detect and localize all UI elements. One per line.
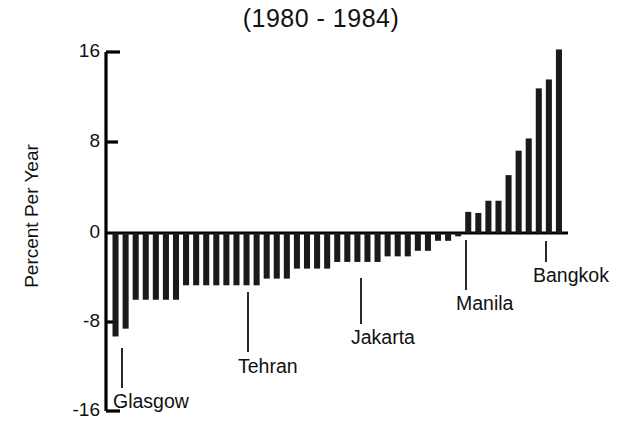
bar (294, 233, 300, 269)
bar (193, 233, 199, 285)
bar (244, 233, 250, 285)
bar (385, 233, 391, 256)
bar (324, 233, 330, 269)
bar (465, 212, 471, 233)
bar (485, 201, 491, 233)
bar (344, 233, 350, 262)
bar (364, 233, 370, 262)
annotation-label-jakarta: Jakarta (351, 326, 415, 349)
bar (526, 138, 532, 233)
bar (133, 233, 139, 300)
bar (375, 233, 381, 262)
bar (314, 233, 320, 269)
bar (516, 151, 522, 233)
bar (475, 213, 481, 233)
bar (536, 88, 542, 233)
bar (435, 233, 441, 241)
bar (395, 233, 401, 256)
bar (506, 175, 512, 233)
bar (405, 233, 411, 256)
bar (334, 233, 340, 262)
bar (173, 233, 179, 300)
bar (143, 233, 149, 300)
bar (264, 233, 270, 279)
bar (495, 201, 501, 233)
bar (254, 233, 260, 285)
plot-area (0, 0, 642, 445)
bar (284, 233, 290, 279)
bar (304, 233, 310, 269)
bar (546, 79, 552, 233)
annotation-label-tehran: Tehran (238, 355, 298, 378)
annotation-label-glasgow: Glasgow (113, 390, 189, 413)
bar (233, 233, 239, 285)
annotation-label-bangkok: Bangkok (533, 264, 609, 287)
bar (455, 233, 461, 236)
bar (274, 233, 280, 279)
bar (425, 233, 431, 251)
bar (123, 233, 129, 329)
bar (203, 233, 209, 285)
chart-figure: (1980 - 1984) Percent Per Year 16 8 0 -8… (0, 0, 642, 445)
bar (445, 233, 451, 241)
bar (223, 233, 229, 285)
bar (213, 233, 219, 285)
bar (354, 233, 360, 262)
bar (113, 233, 119, 336)
annotation-label-manila: Manila (456, 292, 513, 315)
bar (153, 233, 159, 300)
bar (556, 49, 562, 233)
bar (183, 233, 189, 285)
bar (163, 233, 169, 300)
bar (415, 233, 421, 251)
